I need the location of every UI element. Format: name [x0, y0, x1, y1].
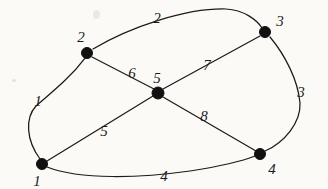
edge-label-5: 5: [100, 124, 108, 139]
edge-path-3: [265, 37, 300, 151]
edge-label-3: 3: [297, 85, 305, 100]
edge-path-4: [47, 156, 255, 177]
edge-path-2: [93, 9, 262, 49]
node-label-4: 4: [268, 162, 276, 177]
edge-path-7: [163, 36, 260, 89]
node-label-2: 2: [77, 30, 85, 45]
node-label-3: 3: [276, 14, 284, 29]
edge-label-6: 6: [128, 66, 136, 81]
edge-path-8: [163, 97, 256, 151]
edge-label-2: 2: [153, 11, 161, 26]
node-label-1: 1: [33, 174, 41, 189]
graph-node-4[interactable]: [255, 149, 266, 160]
graph-node-1[interactable]: [37, 159, 48, 170]
edge-path-1: [29, 58, 85, 159]
graph-diagram: 1 2 3 4 5 1 2 3 4 5 6 7 8: [0, 0, 328, 189]
edge-label-7: 7: [203, 58, 211, 73]
graph-node-3[interactable]: [260, 27, 271, 38]
graph-node-5[interactable]: [152, 87, 164, 99]
edge-path-6: [92, 57, 154, 89]
edge-label-1: 1: [34, 94, 42, 109]
node-label-5: 5: [153, 71, 161, 86]
edge-label-4: 4: [160, 169, 168, 184]
graph-node-2[interactable]: [82, 48, 93, 59]
edge-label-8: 8: [200, 109, 208, 124]
